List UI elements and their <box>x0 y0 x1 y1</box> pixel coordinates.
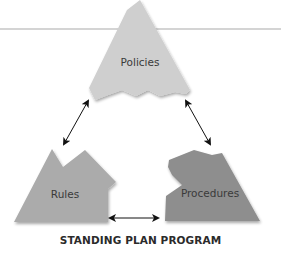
arrow-policies-rules <box>64 101 88 144</box>
node-policies: Policies <box>89 0 190 100</box>
standing-plan-diagram: Policies Rules Procedures <box>0 0 281 254</box>
node-label-policies: Policies <box>121 56 160 68</box>
diagram-title: STANDING PLAN PROGRAM <box>0 234 281 246</box>
arrow-policies-procedures <box>186 101 210 144</box>
node-procedures: Procedures <box>165 150 260 221</box>
procedures-shape <box>165 150 260 221</box>
node-rules: Rules <box>14 149 116 222</box>
node-label-procedures: Procedures <box>181 187 239 199</box>
node-label-rules: Rules <box>51 188 79 200</box>
policies-shape <box>89 0 190 100</box>
rules-shape <box>14 149 116 222</box>
